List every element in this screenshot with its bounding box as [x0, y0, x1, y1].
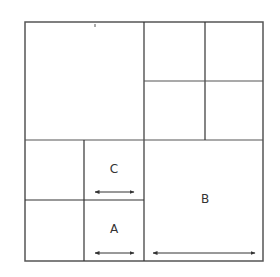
label-a: A — [110, 222, 119, 236]
label-c: C — [110, 162, 118, 176]
square-subdivision-diagram: C A B — [0, 0, 280, 277]
label-b: B — [201, 192, 209, 206]
